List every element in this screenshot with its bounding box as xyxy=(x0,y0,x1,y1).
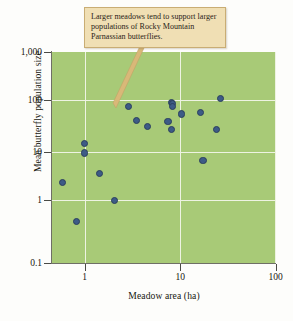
data-point xyxy=(73,218,80,225)
y-tick-1000 xyxy=(44,52,51,53)
y-tick-label-0.1: 0.1 xyxy=(30,258,42,268)
annotation-callout: Larger meadows tend to support larger po… xyxy=(84,7,226,48)
data-point xyxy=(96,170,103,177)
data-point xyxy=(199,157,206,164)
y-tick-100 xyxy=(44,100,51,101)
plot-area xyxy=(52,52,276,263)
x-tick-100 xyxy=(276,264,277,271)
x-tick-label-100: 100 xyxy=(256,272,294,283)
data-point xyxy=(81,140,88,147)
y-tick-0.1 xyxy=(44,263,51,264)
x-tick-1 xyxy=(85,264,86,271)
y-tick-1 xyxy=(44,200,51,201)
gridline-x-1 xyxy=(85,52,86,263)
gridline-x-100 xyxy=(275,52,276,263)
gridline-y-100 xyxy=(52,100,276,101)
data-point xyxy=(133,117,140,124)
x-axis-title: Meadow area (ha) xyxy=(52,290,276,301)
data-point xyxy=(213,126,220,133)
data-point xyxy=(144,123,151,130)
gridline-y-1 xyxy=(52,200,276,201)
annotation-leader-line xyxy=(110,46,144,108)
data-point xyxy=(178,110,185,117)
x-tick-10 xyxy=(180,264,181,271)
y-tick-10 xyxy=(44,152,51,153)
data-point xyxy=(169,103,176,110)
data-point xyxy=(168,126,175,133)
scatter-plot-figure: 1,000 100 10 1 0.1 1 10 100 Mean butterf… xyxy=(0,0,293,321)
data-point xyxy=(111,197,118,204)
y-axis-title: Mean butterfly population size xyxy=(32,17,43,207)
data-point xyxy=(81,149,88,156)
x-tick-label-10: 10 xyxy=(160,272,200,283)
data-point xyxy=(217,95,224,102)
y-axis-spine xyxy=(51,51,52,264)
x-tick-label-1: 1 xyxy=(65,272,105,283)
data-point xyxy=(197,109,204,116)
gridline-x-10 xyxy=(180,52,181,263)
data-point xyxy=(164,118,171,125)
data-point xyxy=(59,179,66,186)
